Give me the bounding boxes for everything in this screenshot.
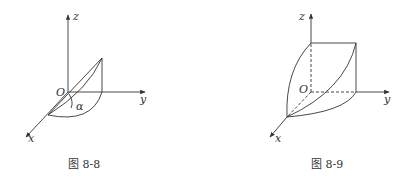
- z-label: z: [298, 10, 305, 23]
- figures-canvas: z y x O α 图 8-8 z y x O 图 8-9: [0, 0, 403, 183]
- x-label: x: [275, 132, 282, 145]
- figure-8-8: [26, 15, 145, 137]
- caption-8-8: 图 8-8: [68, 158, 100, 171]
- diagonal-curve: [287, 43, 356, 117]
- figure-8-9: [270, 14, 389, 137]
- origin-label: O: [299, 83, 308, 96]
- z-label: z: [72, 10, 79, 23]
- caption-8-9: 图 8-9: [311, 158, 343, 171]
- angle-arc: [69, 94, 72, 108]
- origin-label: O: [56, 86, 65, 99]
- alpha-label: α: [76, 100, 84, 113]
- y-label: y: [139, 93, 147, 106]
- y-label: y: [383, 93, 391, 106]
- x-label: x: [28, 132, 35, 145]
